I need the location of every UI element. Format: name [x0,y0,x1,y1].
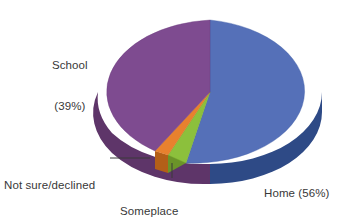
slice-label-not-sure: Not sure/declined to answer (2%) [4,152,95,217]
slice-label-school: School (39%) [52,32,88,140]
slice-label-school-line2: (39%) [52,100,88,114]
pie-chart: School (39%) Home (56%) Not sure/decline… [0,0,363,217]
slice-label-home: Home (56%) [264,160,330,217]
slice-label-not-sure-line1: Not sure/declined [4,179,95,193]
slice-label-someplace: Someplace else (4%) [120,178,178,217]
pie-top-faces [107,20,305,163]
slice-label-someplace-line1: Someplace [120,205,178,217]
slice-label-school-line1: School [52,59,88,73]
slice-label-home-line1: Home (56%) [264,187,330,201]
